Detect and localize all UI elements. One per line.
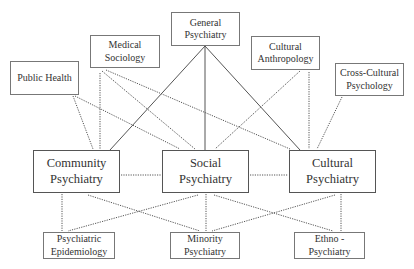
- link-public-health-to-social-psychiatry: [75, 96, 180, 149]
- node-label: Cultural Psychiatry: [306, 156, 359, 187]
- node-general-psychiatry: General Psychiatry: [171, 12, 240, 46]
- node-label: Community Psychiatry: [47, 156, 107, 187]
- link-community-psychiatry-to-minority-psychiatry: [88, 195, 200, 231]
- link-medical-sociology-to-social-psychiatry: [102, 71, 195, 149]
- node-ethno-psychiatry: Ethno - Psychiatry: [294, 232, 365, 259]
- node-social-psychiatry: Social Psychiatry: [162, 150, 249, 193]
- link-cultural-anthropology-to-social-psychiatry: [215, 71, 300, 149]
- node-label: Cross-Cultural Psychology: [340, 67, 399, 92]
- node-label: Minority Psychiatry: [184, 233, 226, 258]
- node-label: Public Health: [17, 72, 72, 85]
- node-medical-sociology: Medical Sociology: [90, 35, 160, 68]
- node-label: Ethno - Psychiatry: [308, 233, 350, 258]
- node-label: Cultural Anthropology: [257, 41, 313, 66]
- node-cross-cultural-psychology: Cross-Cultural Psychology: [335, 63, 404, 96]
- link-social-psychiatry-to-psychiatric-epidemiology: [68, 195, 198, 231]
- node-label: Psychiatric Epidemiology: [51, 233, 108, 258]
- node-cultural-psychiatry: Cultural Psychiatry: [289, 150, 376, 193]
- link-cross-cultural-psychology-to-cultural-psychiatry: [317, 97, 342, 149]
- node-community-psychiatry: Community Psychiatry: [33, 150, 120, 193]
- node-label: Social Psychiatry: [179, 156, 232, 187]
- node-psychiatric-epidemiology: Psychiatric Epidemiology: [43, 232, 115, 259]
- node-minority-psychiatry: Minority Psychiatry: [170, 232, 240, 259]
- node-public-health: Public Health: [10, 61, 79, 95]
- link-social-psychiatry-to-ethno-psychiatry: [214, 195, 333, 231]
- node-cultural-anthropology: Cultural Anthropology: [251, 36, 320, 70]
- node-label: Medical Sociology: [105, 39, 146, 64]
- node-label: General Psychiatry: [184, 17, 226, 42]
